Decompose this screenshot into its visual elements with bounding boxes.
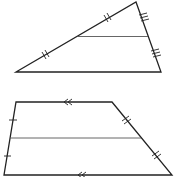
triple-tick-mark [139, 13, 149, 21]
triangle-figure [16, 2, 161, 72]
triangle [16, 2, 161, 72]
trapezoid [4, 102, 172, 175]
diagram [0, 0, 174, 177]
triple-tick-mark [151, 49, 161, 57]
trapezoid-figure [4, 99, 172, 177]
